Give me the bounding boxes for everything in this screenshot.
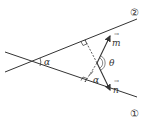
alpha-arc-intersection xyxy=(40,58,41,66)
alpha-label-inner: α xyxy=(93,75,99,85)
theta-arc-outer xyxy=(101,56,105,70)
theta-label: θ xyxy=(109,58,115,68)
alpha-label-intersection: α xyxy=(44,57,50,67)
line-2-label: ② xyxy=(130,7,139,18)
vector-n-label: n xyxy=(113,85,119,95)
vector-n-arrow-glyph: → xyxy=(114,77,119,84)
line-1-label: ① xyxy=(130,108,139,119)
vector-m-label: m xyxy=(112,38,121,48)
theta-arc-inner xyxy=(100,58,103,68)
vector-angle-diagram: α θ α → m → n ② ① xyxy=(0,0,152,127)
vector-m-arrow-glyph: → xyxy=(114,30,119,37)
